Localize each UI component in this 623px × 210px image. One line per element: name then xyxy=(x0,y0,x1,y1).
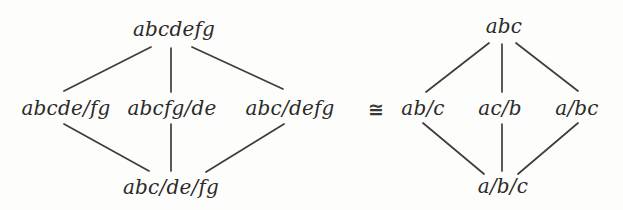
isomorphism-symbol: ≅ xyxy=(368,98,384,120)
edge-right-top-to-midright xyxy=(516,43,578,91)
partition-lattice-isomorphism-figure: abcdefg abcde/fg abcfg/de abc/defg abc/d… xyxy=(0,0,623,210)
edge-right-midright-to-bottom xyxy=(518,123,578,174)
left-lattice-top-node: abcdefg xyxy=(133,17,215,41)
edge-left-top-to-midright xyxy=(192,47,283,89)
edge-left-midleft-to-bottom xyxy=(64,124,149,171)
left-lattice-mid-right-node: abc/defg xyxy=(245,96,334,120)
right-lattice-bottom-node: a/b/c xyxy=(478,174,528,198)
edge-left-midright-to-bottom xyxy=(206,124,284,172)
right-lattice-mid-left-node: ab/c xyxy=(401,96,444,120)
right-lattice-mid-center-node: ac/b xyxy=(478,96,521,120)
right-lattice-mid-right-node: a/bc xyxy=(555,96,598,120)
left-lattice-mid-left-node: abcde/fg xyxy=(21,96,110,120)
edge-right-top-to-midleft xyxy=(426,43,489,92)
edge-right-midleft-to-bottom xyxy=(423,123,484,174)
left-lattice-bottom-node: abc/de/fg xyxy=(123,175,219,199)
left-lattice-mid-center-node: abcfg/de xyxy=(127,96,216,120)
edge-left-top-to-midleft xyxy=(64,47,151,91)
right-lattice-top-node: abc xyxy=(486,14,523,38)
